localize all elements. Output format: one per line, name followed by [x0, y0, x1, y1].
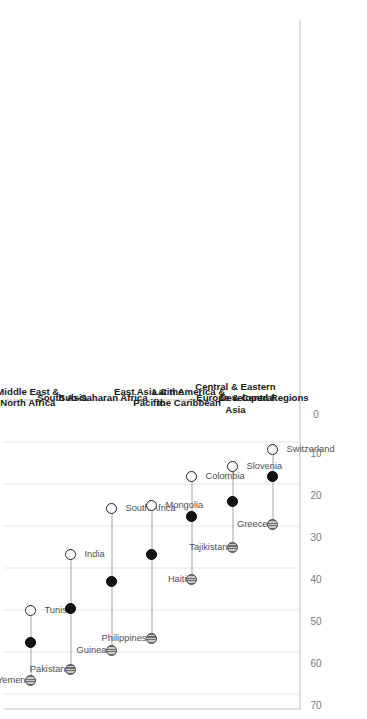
gridline-10	[4, 441, 299, 442]
tick-label-30: 30	[310, 532, 321, 543]
tick-label-50: 50	[310, 616, 321, 627]
gridline-60	[4, 651, 299, 652]
marker-avg[interactable]	[25, 637, 36, 648]
marker-high[interactable]	[65, 664, 76, 675]
tick-label-0: 0	[313, 409, 319, 420]
marker-avg[interactable]	[266, 471, 277, 482]
tick-label-70: 70	[310, 700, 321, 711]
marker-avg[interactable]	[65, 603, 76, 614]
marker-low[interactable]	[186, 471, 197, 482]
point-label-low: Switzerland	[286, 443, 334, 453]
point-label-high: Guinea	[76, 644, 106, 654]
marker-high[interactable]	[226, 542, 237, 553]
marker-low[interactable]	[146, 500, 157, 511]
connector-line	[272, 449, 273, 525]
point-label-low: India	[84, 548, 104, 558]
marker-high[interactable]	[25, 674, 36, 685]
connector-line	[191, 476, 192, 579]
chart-screenshot: 706050403020100 Middle East & North Afri…	[0, 0, 367, 719]
point-label-high: Yemen	[0, 674, 25, 684]
point-label-low: Colombia	[205, 470, 244, 480]
marker-avg[interactable]	[146, 548, 157, 559]
rotated-chart-canvas: 706050403020100 Middle East & North Afri…	[0, 0, 367, 719]
point-label-high: Pakistan	[30, 663, 66, 673]
marker-low[interactable]	[266, 443, 277, 454]
point-label-low: Slovenia	[246, 460, 282, 470]
point-label-low: Mongolia	[165, 500, 203, 510]
point-label-high: Greece	[236, 518, 267, 528]
marker-high[interactable]	[105, 645, 116, 656]
point-label-high: Tajikistan	[188, 542, 226, 552]
gridline-20	[4, 483, 299, 484]
marker-avg[interactable]	[186, 511, 197, 522]
marker-avg[interactable]	[226, 496, 237, 507]
category-label-6: Developed Regions	[216, 391, 312, 402]
tick-label-60: 60	[310, 658, 321, 669]
marker-low[interactable]	[25, 605, 36, 616]
marker-low[interactable]	[105, 502, 116, 513]
marker-high[interactable]	[146, 632, 157, 643]
point-label-high: Philippines	[101, 632, 146, 642]
marker-avg[interactable]	[105, 576, 116, 587]
marker-high[interactable]	[186, 574, 197, 585]
marker-low[interactable]	[65, 548, 76, 559]
marker-high[interactable]	[266, 519, 277, 530]
tick-label-20: 20	[310, 490, 321, 501]
tick-label-40: 40	[310, 574, 321, 585]
gridline-70	[4, 693, 299, 694]
point-label-high: Haiti	[168, 573, 187, 583]
marker-low[interactable]	[226, 460, 237, 471]
connector-line	[151, 506, 152, 638]
